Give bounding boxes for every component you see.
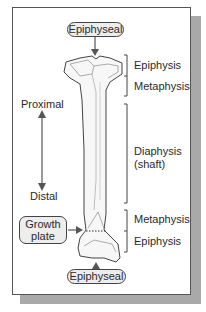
direction-label-proximal: Proximal	[21, 98, 64, 110]
region-label-distal-epiphysis: Epiphysis	[134, 235, 181, 247]
region-label-diaphysis: Diaphysis	[134, 145, 182, 157]
region-label-proximal-epiphysis: Epiphysis	[134, 59, 181, 71]
direction-label-distal: Distal	[30, 190, 58, 202]
region-label-diaphysis-sub: (shaft)	[134, 158, 165, 170]
epiphyseal-callout-top: Epiphyseal	[67, 22, 124, 37]
growth-plate-callout: Growth plate	[19, 216, 67, 244]
region-label-proximal-metaphysis: Metaphysis	[134, 80, 190, 92]
growth-plate-line-1: Growth	[20, 218, 66, 230]
epiphyseal-callout-bottom: Epiphyseal	[67, 269, 126, 284]
region-label-distal-metaphysis: Metaphysis	[134, 213, 190, 225]
growth-plate-line-2: plate	[20, 230, 66, 242]
